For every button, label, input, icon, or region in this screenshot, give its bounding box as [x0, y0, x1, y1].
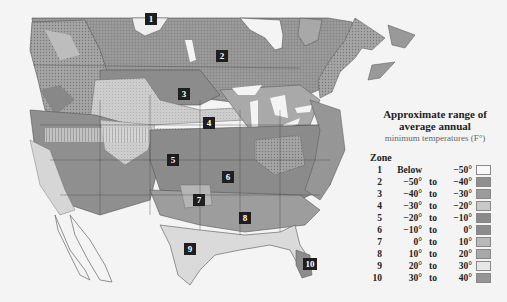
legend-row-zone-10: 10 30° to 40°	[370, 273, 502, 284]
zone-range-to: to	[426, 225, 440, 235]
zone-label-6: 6	[222, 171, 234, 183]
zone-range-from: −10°	[384, 225, 422, 235]
zone-range-to: to	[426, 189, 440, 199]
zone-range-from: −30°	[384, 201, 422, 211]
legend-row-zone-4: 4 −30° to −20°	[370, 201, 502, 212]
nova-scotia	[368, 62, 395, 80]
zone-range-to: to	[426, 177, 440, 187]
zone-range-upper: 0°	[440, 225, 472, 235]
zone-range-from: −40°	[384, 189, 422, 199]
zone-label-5: 5	[167, 154, 179, 166]
zone-range-upper: 40°	[440, 273, 472, 283]
zone-label-7: 7	[193, 194, 205, 206]
legend-row-zone-1: 1 Below −50°	[370, 165, 502, 176]
zone-number: 2	[370, 177, 382, 187]
zone-number: 5	[370, 213, 382, 223]
zone-number: 9	[370, 261, 382, 271]
zone-range-upper: 20°	[440, 249, 472, 259]
zone-label-4: 4	[203, 117, 215, 129]
zone-label-10: 10	[303, 258, 317, 270]
legend-row-zone-9: 9 20° to 30°	[370, 261, 502, 272]
legend-row-zone-2: 2 −50° to −40°	[370, 177, 502, 188]
zone-range-upper: −30°	[440, 189, 472, 199]
zone-range-upper: −10°	[440, 213, 472, 223]
legend-row-zone-5: 5 −20° to −10°	[370, 213, 502, 224]
legend-title-line-3: minimum temperatures (F°)	[360, 132, 507, 144]
zone-swatch	[476, 165, 491, 175]
zone-number: 6	[370, 225, 382, 235]
zone-swatch	[476, 201, 491, 211]
zone-range-upper: 30°	[440, 261, 472, 271]
zone-swatch	[476, 249, 491, 259]
zone-label-9: 9	[184, 243, 196, 255]
mexico-mainland	[70, 215, 112, 282]
zone-range-from: 10°	[384, 249, 422, 259]
zone-number: 10	[370, 273, 382, 283]
zone-swatch	[476, 213, 491, 223]
zone-label-1: 1	[145, 13, 157, 25]
zone-number: 1	[370, 165, 382, 175]
legend-title-line-2: average annual	[360, 120, 507, 132]
zone-number: 8	[370, 249, 382, 259]
legend-row-zone-3: 3 −40° to −30°	[370, 189, 502, 200]
zone-swatch	[476, 237, 491, 247]
zone-swatch	[476, 261, 491, 271]
zone-range-from: −20°	[384, 213, 422, 223]
legend-title-line-1: Approximate range of	[360, 108, 507, 120]
zone-label-8: 8	[239, 212, 251, 224]
zone-range-to: to	[426, 201, 440, 211]
zone-range-from: 0°	[384, 237, 422, 247]
zone-range-to: to	[426, 237, 440, 247]
zone-number: 3	[370, 189, 382, 199]
legend-row-zone-7: 7 0° to 10°	[370, 237, 502, 248]
zone-label-2: 2	[216, 50, 228, 62]
zone-range-to: to	[426, 261, 440, 271]
zone-swatch	[476, 225, 491, 235]
zone-label-3: 3	[178, 88, 190, 100]
zone-range-to: to	[426, 213, 440, 223]
zone-range-from: 30°	[384, 273, 422, 283]
zone-range-upper: 10°	[440, 237, 472, 247]
newfoundland	[388, 25, 415, 48]
zone-range-to: to	[426, 249, 440, 259]
zone-range-upper: −50°	[440, 165, 472, 175]
zone-swatch	[476, 189, 491, 199]
zone-range-from: Below	[384, 165, 422, 175]
zone-number: 4	[370, 201, 382, 211]
zone-range-from: −50°	[384, 177, 422, 187]
legend-title: Approximate range of average annual mini…	[360, 108, 507, 144]
zone-number: 7	[370, 237, 382, 247]
zone-range-from: 20°	[384, 261, 422, 271]
legend-row-zone-8: 8 10° to 20°	[370, 249, 502, 260]
zone-range-upper: −20°	[440, 201, 472, 211]
legend-zone-header: Zone	[370, 152, 392, 163]
legend-row-zone-6: 6 −10° to 0°	[370, 225, 502, 236]
zone-swatch	[476, 273, 491, 283]
zone-range-to: to	[426, 273, 440, 283]
gulf-coast-zone-9	[160, 225, 310, 285]
zone-range-upper: −40°	[440, 177, 472, 187]
zone-swatch	[476, 177, 491, 187]
